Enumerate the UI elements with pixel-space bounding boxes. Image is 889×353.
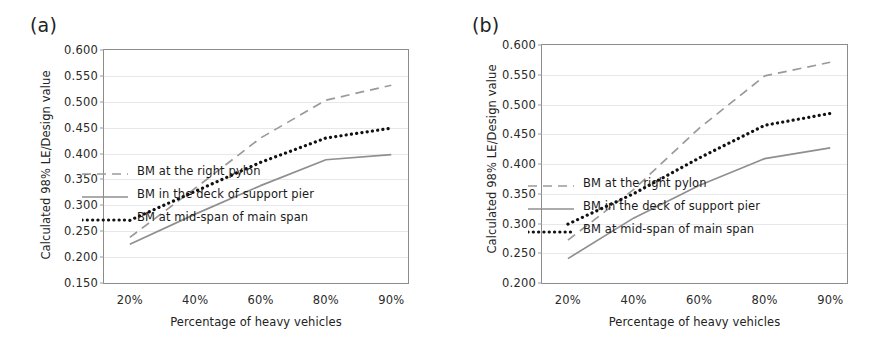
x-tick-label: 40% [182, 293, 208, 307]
y-tick-label: 0.600 [502, 38, 536, 52]
x-tick-label: 60% [686, 293, 712, 307]
legend-label: BM at the right pylon [137, 164, 261, 178]
legend-label: BM at mid-span of main span [137, 210, 308, 224]
panel-a-y-axis-title: Calculated 98% LE/Design value [39, 55, 53, 275]
legend-item[interactable]: BM at mid-span of main span [528, 218, 760, 239]
panel-b-series-lines [542, 45, 847, 283]
panel-a-label: (a) [30, 14, 57, 36]
y-tick-label: 0.400 [502, 157, 536, 171]
y-tick-label: 0.450 [64, 121, 98, 135]
panel-b: (b) Calculated 98% LE/Design value 0.600… [444, 0, 888, 353]
x-tick-label: 80% [752, 293, 778, 307]
y-tick-label: 0.400 [64, 147, 98, 161]
y-tick-label: 0.500 [502, 98, 536, 112]
legend-label: BM at the right pylon [583, 176, 707, 190]
y-tick-label: 0.200 [502, 276, 536, 290]
x-tick-label: 20% [555, 293, 581, 307]
legend-item[interactable]: BM in the deck of support pier [82, 183, 314, 204]
x-tick-label: 80% [313, 293, 339, 307]
panel-b-x-axis-title: Percentage of heavy vehicles [609, 315, 781, 329]
legend-swatch-solid [528, 200, 574, 212]
figure-two-panel-line-charts: (a) Calculated 98% LE/Design value 0.600… [0, 0, 889, 353]
panel-a-legend: BM at the right pylonBM in the deck of s… [82, 160, 314, 227]
x-tick-label: 90% [378, 293, 404, 307]
legend-label: BM in the deck of support pier [583, 199, 760, 213]
legend-item[interactable]: BM at the right pylon [528, 172, 760, 193]
x-tick-label: 60% [247, 293, 273, 307]
legend-swatch-solid [82, 188, 128, 200]
legend-swatch-dotted [82, 211, 128, 223]
y-tick-label: 0.600 [64, 43, 98, 57]
legend-item[interactable]: BM at the right pylon [82, 160, 314, 181]
panel-a: (a) Calculated 98% LE/Design value 0.600… [0, 0, 444, 353]
x-tick-label: 40% [620, 293, 646, 307]
y-tick-label: 0.500 [64, 95, 98, 109]
legend-swatch-dashed [528, 177, 574, 189]
y-tick-label: 0.550 [64, 69, 98, 83]
x-tick-label: 20% [117, 293, 143, 307]
y-tick-label: 0.450 [502, 127, 536, 141]
panel-b-legend: BM at the right pylonBM in the deck of s… [528, 172, 760, 239]
legend-swatch-dotted [528, 223, 574, 235]
y-tick-label: 0.250 [502, 246, 536, 260]
panel-b-label: (b) [472, 14, 500, 36]
panel-a-x-axis-title: Percentage of heavy vehicles [170, 315, 342, 329]
panel-b-y-axis-title: Calculated 98% LE/Design value [485, 49, 499, 269]
legend-swatch-dashed [82, 165, 128, 177]
legend-label: BM in the deck of support pier [137, 187, 314, 201]
y-tick-label: 0.150 [64, 276, 98, 290]
panel-b-plot-area: 0.6000.5500.5000.4500.4000.3500.3000.250… [541, 44, 848, 284]
legend-item[interactable]: BM at mid-span of main span [82, 206, 314, 227]
y-tick-label: 0.550 [502, 68, 536, 82]
legend-item[interactable]: BM in the deck of support pier [528, 195, 760, 216]
legend-label: BM at mid-span of main span [583, 222, 754, 236]
y-tick-label: 0.200 [64, 250, 98, 264]
x-tick-label: 90% [817, 293, 843, 307]
